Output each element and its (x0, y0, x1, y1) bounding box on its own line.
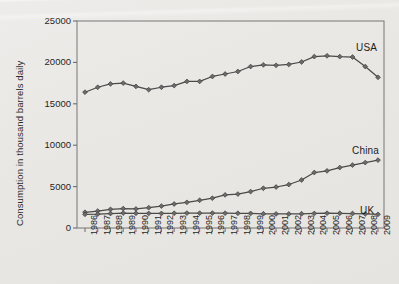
data-point-marker (312, 54, 317, 59)
x-tick-label: 2002 (293, 215, 303, 235)
y-tick-label: 15000 (20, 98, 71, 109)
y-tick-label: 25000 (20, 15, 71, 26)
x-tick-label: 1987 (102, 215, 112, 235)
data-point-marker (261, 62, 266, 67)
x-tick-label: 1997 (229, 215, 239, 235)
data-point-marker (185, 79, 190, 84)
data-point-marker (159, 204, 164, 209)
data-point-marker (108, 82, 113, 87)
data-point-marker (261, 186, 266, 191)
data-point-marker (337, 54, 342, 59)
data-point-marker (235, 192, 240, 197)
x-tick-label: 1996 (216, 215, 226, 235)
data-point-marker (197, 79, 202, 84)
data-point-marker (363, 160, 368, 165)
series-china (83, 158, 381, 215)
x-tick-label: 2003 (306, 215, 316, 235)
x-tick-label: 2001 (280, 215, 290, 235)
data-point-marker (235, 69, 240, 74)
x-tick-label: 1993 (178, 215, 188, 235)
x-tick-label: 1995 (204, 215, 214, 235)
data-point-marker (274, 63, 279, 68)
x-tick-label: 1986 (89, 215, 99, 235)
x-tick-label: 2006 (344, 215, 354, 235)
series-label-china: China (352, 145, 379, 156)
y-tick-label: 5000 (20, 181, 71, 192)
y-tick-label: 20000 (20, 56, 71, 67)
data-point-marker (223, 192, 228, 197)
x-tick-label: 2008 (369, 215, 379, 235)
data-point-marker (286, 182, 291, 187)
data-point-marker (350, 163, 355, 168)
data-point-marker (248, 189, 253, 194)
data-point-marker (223, 72, 228, 77)
data-point-marker (210, 74, 215, 79)
series-label-usa: USA (356, 42, 377, 53)
x-tick-label: 2000 (267, 215, 277, 235)
x-tick-label: 1990 (140, 215, 150, 235)
x-tick-label: 2009 (382, 215, 392, 235)
data-point-marker (172, 83, 177, 88)
data-point-marker (134, 84, 139, 89)
data-point-marker (210, 196, 215, 201)
series-usa (83, 53, 381, 94)
data-point-marker (337, 165, 342, 170)
data-point-marker (286, 62, 291, 67)
data-point-marker (325, 53, 330, 58)
data-point-marker (146, 87, 151, 92)
y-tick-label: 10000 (20, 139, 71, 150)
data-point-marker (299, 60, 304, 65)
data-point-marker (274, 185, 279, 190)
x-tick-label: 2005 (331, 215, 341, 235)
y-tick-label: 0 (20, 222, 71, 233)
x-tick-label: 2007 (357, 215, 367, 235)
data-point-marker (376, 158, 381, 163)
oil-consumption-chart: Consumption in thousand barrels daily 05… (0, 0, 399, 284)
x-tick-label: 1994 (191, 215, 201, 235)
data-point-marker (325, 168, 330, 173)
data-point-marker (159, 85, 164, 90)
series-label-uk: UK (360, 205, 374, 216)
x-tick-label: 1992 (165, 215, 175, 235)
x-tick-label: 1989 (127, 215, 137, 235)
x-tick-label: 1991 (153, 215, 163, 235)
x-tick-label: 2004 (318, 215, 328, 235)
data-point-marker (83, 90, 88, 95)
x-tick-label: 1988 (114, 215, 124, 235)
x-tick-label: 1999 (255, 215, 265, 235)
data-point-marker (248, 64, 253, 69)
x-tick-label: 1998 (242, 215, 252, 235)
data-point-marker (172, 202, 177, 207)
data-point-marker (121, 81, 126, 86)
data-point-marker (146, 205, 151, 210)
data-point-marker (95, 85, 100, 90)
data-point-marker (185, 200, 190, 205)
data-point-marker (197, 198, 202, 203)
